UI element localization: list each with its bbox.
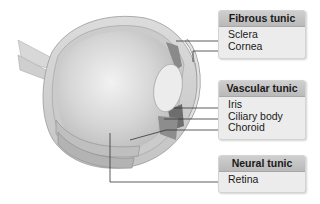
label-sclera: Sclera (228, 29, 305, 41)
fibrous-tunic-box: Fibrous tunic Sclera Cornea (218, 10, 306, 59)
neural-tunic-box: Neural tunic Retina (218, 155, 306, 193)
label-iris: Iris (228, 99, 305, 111)
vascular-tunic-box: Vascular tunic Iris Ciliary body Choroid (218, 80, 306, 140)
neural-tunic-title: Neural tunic (219, 156, 305, 172)
label-retina: Retina (228, 174, 305, 186)
fibrous-tunic-title: Fibrous tunic (219, 11, 305, 27)
label-choroid: Choroid (228, 122, 305, 134)
vascular-tunic-title: Vascular tunic (219, 81, 305, 97)
label-cornea: Cornea (228, 41, 305, 53)
